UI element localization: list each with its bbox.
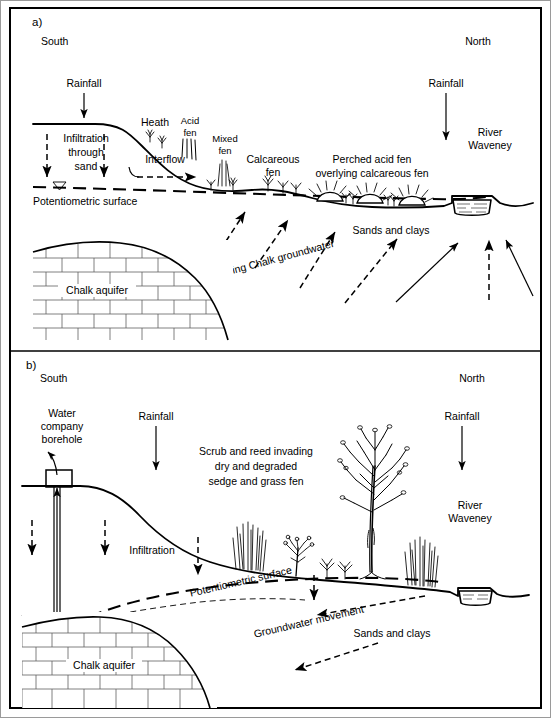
panel-a-id: a) bbox=[32, 16, 42, 28]
figure-root: a) South North Rainfall Rainfall Infiltr… bbox=[0, 0, 551, 718]
panel-a-mixed-fen-line1: Mixed bbox=[212, 133, 237, 144]
panel-a-perched-line1: Perched acid fen bbox=[333, 153, 412, 165]
panel-a-heath-label: Heath bbox=[141, 116, 169, 128]
panel-b-rainfall-left-label: Rainfall bbox=[138, 410, 173, 422]
panel-a-infiltration-line3: sand bbox=[75, 160, 98, 172]
panel-a-south-label: South bbox=[41, 35, 69, 47]
panel-b-groundwater-arrow-2 bbox=[295, 643, 378, 670]
panel-b-river-line1: River bbox=[458, 499, 483, 511]
panel-a-infiltration-line2: through bbox=[68, 146, 104, 158]
panel-a-rainfall-left-label: Rainfall bbox=[66, 77, 101, 89]
panel-a-acid-fen-line2: fen bbox=[183, 127, 196, 138]
panel-a-sands-clays-label: Sands and clays bbox=[352, 224, 429, 236]
panel-a-river-channel bbox=[453, 200, 491, 215]
panel-a-chalk-aquifer: Chalk aquifer bbox=[30, 240, 240, 342]
panel-b: b) South North Water company borehole Ra… bbox=[20, 359, 529, 708]
panel-b-river-line2: Waveney bbox=[448, 512, 492, 524]
heath-vegetation bbox=[146, 130, 166, 148]
panel-b-scrub-line3: sedge and grass fen bbox=[208, 475, 303, 487]
panel-a-potentiometric-label: Potentiometric surface bbox=[33, 195, 138, 207]
panel-b-north-label: North bbox=[459, 372, 485, 384]
panel-b-groundwater-label: Groundwater movement bbox=[252, 603, 365, 640]
panel-a-acid-fen-line1: Acid bbox=[181, 115, 199, 126]
panel-b-borehole-leader bbox=[48, 452, 57, 475]
panel-a-chalk-aquifer-label: Chalk aquifer bbox=[66, 284, 128, 296]
panel-a-interflow-hook bbox=[129, 167, 139, 177]
panel-a-infiltration-line1: Infiltration bbox=[63, 132, 109, 144]
panel-b-rainfall-right-label: Rainfall bbox=[444, 410, 479, 422]
panel-b-sands-clays-label: Sands and clays bbox=[353, 627, 430, 639]
panel-a-mixed-fen-line2: fen bbox=[218, 145, 231, 156]
panel-a-perched-line2: overlying calcareous fen bbox=[315, 167, 428, 179]
panel-b-id: b) bbox=[26, 359, 36, 371]
panel-b-borehole-line2: company bbox=[41, 420, 84, 432]
diagram-canvas: a) South North Rainfall Rainfall Infiltr… bbox=[0, 0, 551, 718]
panel-b-infiltration-label: Infiltration bbox=[129, 544, 175, 556]
panel-b-river-channel bbox=[459, 591, 492, 605]
calcareous-fen-vegetation bbox=[263, 176, 301, 195]
panel-b-borehole-line1: Water bbox=[48, 407, 76, 419]
panel-a-river-line1: River bbox=[478, 126, 503, 138]
panel-b-scrub-line1: Scrub and reed invading bbox=[199, 445, 313, 457]
panel-a-rainfall-right-label: Rainfall bbox=[428, 77, 463, 89]
panel-b-chalk-aquifer-label: Chalk aquifer bbox=[73, 659, 135, 671]
mixed-fen-vegetation bbox=[207, 160, 237, 190]
panel-b-large-tree bbox=[338, 425, 410, 579]
panel-b-south-label: South bbox=[40, 372, 68, 384]
panel-b-scrub-line2: dry and degraded bbox=[215, 460, 297, 472]
panel-a-river-line2: Waveney bbox=[468, 139, 512, 151]
panel-b-wellhead-box bbox=[46, 470, 72, 487]
panel-a-north-label: North bbox=[465, 35, 491, 47]
panel-b-shrubs bbox=[320, 559, 352, 579]
panel-a: a) South North Rainfall Rainfall Infiltr… bbox=[30, 16, 533, 342]
panel-b-groundwater-arrow-1 bbox=[317, 596, 425, 615]
panel-a-calcareous-fen-line2: fen bbox=[266, 166, 281, 178]
panel-b-reed-clump-left bbox=[233, 522, 266, 571]
panel-b-chalk-aquifer: Chalk aquifer bbox=[20, 612, 225, 708]
panel-a-interflow-label: Interflow bbox=[145, 153, 185, 165]
panel-b-borehole-line3: borehole bbox=[42, 433, 83, 445]
panel-a-calcareous-fen-line1: Calcareous bbox=[246, 153, 299, 165]
